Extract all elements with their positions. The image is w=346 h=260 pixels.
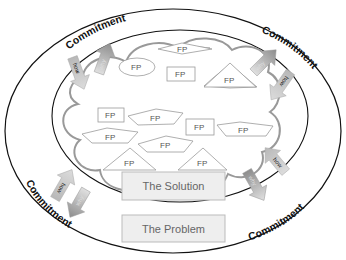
commitment-label-bottom-right: Commitment [246,200,306,242]
svg-text:The Solution: The Solution [143,180,205,192]
svg-text:FP: FP [131,63,141,72]
problem-box: The Problem [122,215,225,242]
svg-text:FP: FP [194,123,204,132]
commitment-diagram: Commitment Commitment Commitment Commitm… [0,0,346,260]
svg-text:FP: FP [124,159,134,168]
svg-text:FP: FP [160,141,170,150]
svg-text:The Problem: The Problem [142,223,205,235]
fp-ellipse: FP [119,58,155,76]
svg-text:FP: FP [150,114,160,123]
commitment-label-top-left: Commitment [63,11,127,51]
svg-text:FP: FP [177,45,187,54]
fp-rectangle-3: FP [186,119,214,135]
svg-text:FP: FP [224,76,234,85]
solution-box: The Solution [122,172,225,200]
svg-text:FP: FP [105,111,115,120]
fp-rectangle-2: FP [98,108,124,122]
svg-text:FP: FP [197,159,207,168]
svg-text:FP: FP [105,133,115,142]
fp-rectangle-1: FP [167,67,195,81]
svg-text:FP: FP [238,126,248,135]
svg-text:FP: FP [175,70,185,79]
